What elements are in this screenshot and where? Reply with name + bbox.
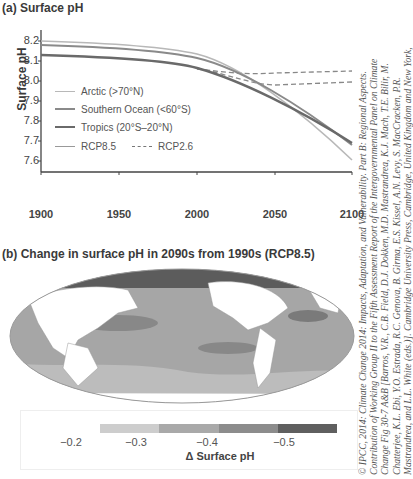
panel-b-title: (b) Change in surface pH in 2090s from 1…: [2, 247, 315, 261]
legend: Arctic (>70°N) Southern Ocean (<60°S) Tr…: [55, 80, 193, 166]
colorbar-label: Δ Surface pH: [160, 450, 280, 462]
legend-arctic: Arctic (>70°N): [81, 86, 144, 97]
colorbar-tick: −0.4: [187, 436, 227, 448]
x-tick: 2000: [177, 208, 217, 220]
legend-rcp26: RCP2.6: [158, 141, 193, 152]
colorbar-tick: −0.3: [116, 436, 156, 448]
legend-tropics: Tropics (20°S–20°N): [81, 122, 173, 133]
x-tick: 2050: [255, 208, 295, 220]
citation-text: © IPCC, 2014: Climate Change 2014: Impac…: [357, 5, 413, 475]
colorbar-tick: −0.5: [264, 436, 304, 448]
x-tick: 1950: [99, 208, 139, 220]
legend-southern-ocean: Southern Ocean (<60°S): [81, 104, 191, 115]
world-map: [8, 268, 356, 404]
x-tick: 1900: [21, 208, 61, 220]
colorbar: [100, 424, 337, 433]
colorbar-tick: −0.2: [51, 436, 91, 448]
legend-rcp85: RCP8.5: [81, 141, 116, 152]
